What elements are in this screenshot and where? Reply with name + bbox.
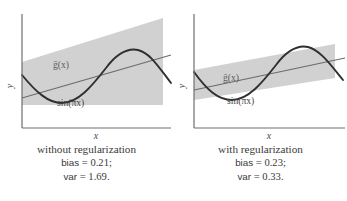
- caption-without-regularization: without regularization bias = 0.21; var …: [0, 142, 173, 183]
- var-equals: =: [251, 171, 262, 182]
- var-value: 1.69.: [88, 171, 109, 182]
- bias-value: 0.23;: [264, 157, 285, 168]
- bias-equals: =: [253, 157, 264, 168]
- sin-label: sin(πx): [57, 97, 84, 109]
- bias-stat: bias = 0.21;: [0, 156, 173, 170]
- var-value: 0.33.: [262, 171, 283, 182]
- bias-term: bias: [61, 157, 79, 168]
- var-stat: var = 0.33.: [174, 170, 347, 184]
- y-axis-label: y: [176, 83, 187, 89]
- sin-label: sin(πx): [227, 95, 254, 107]
- gbar-label: ḡ(x): [223, 72, 239, 84]
- caption-title: without regularization: [0, 142, 173, 156]
- variance-band: [194, 44, 335, 100]
- plot-without-regularization: y x ḡ(x) sin(πx): [0, 0, 173, 140]
- bias-stat: bias = 0.23;: [174, 156, 347, 170]
- var-term: var: [237, 171, 251, 182]
- bias-term: bias: [235, 157, 253, 168]
- bias-equals: =: [79, 157, 90, 168]
- bias-value: 0.21;: [90, 157, 111, 168]
- x-axis-label: x: [93, 130, 99, 140]
- var-equals: =: [77, 171, 88, 182]
- y-axis-label: y: [4, 83, 15, 89]
- var-stat: var = 1.69.: [0, 170, 173, 184]
- caption-title: with regularization: [174, 142, 347, 156]
- var-term: var: [63, 171, 77, 182]
- plot-with-regularization: y x ḡ(x) sin(πx): [174, 0, 347, 140]
- panel-with-regularization: y x ḡ(x) sin(πx) with regularization bi…: [174, 0, 347, 201]
- x-axis-label: x: [266, 130, 272, 140]
- panel-without-regularization: y x ḡ(x) sin(πx) without regularization…: [0, 0, 173, 201]
- bias-variance-figure: y x ḡ(x) sin(πx) without regularization…: [0, 0, 347, 201]
- gbar-label: ḡ(x): [53, 59, 69, 71]
- caption-with-regularization: with regularization bias = 0.23; var = 0…: [174, 142, 347, 183]
